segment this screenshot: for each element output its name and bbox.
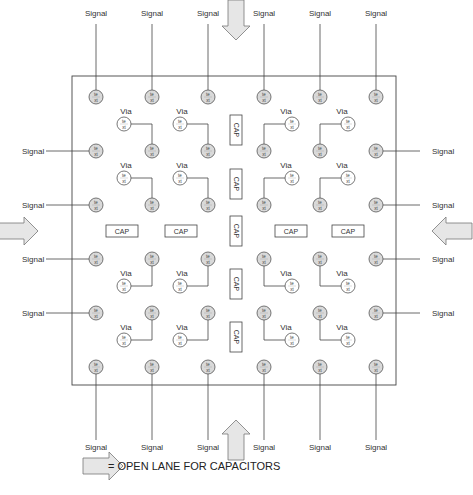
pin: text <box>145 252 159 266</box>
via-label: Via <box>176 269 188 278</box>
signal-label-left: Signal <box>22 147 44 156</box>
legend: = OPEN LANE FOR CAPACITORS <box>108 460 280 472</box>
pin: text <box>89 252 103 266</box>
svg-text:te: te <box>374 254 378 259</box>
svg-text:te: te <box>290 335 294 340</box>
pin: text <box>313 306 327 320</box>
signal-label-bottom: Signal <box>197 443 219 452</box>
svg-text:te: te <box>318 146 322 151</box>
svg-text:te: te <box>122 173 126 178</box>
svg-text:te: te <box>318 362 322 367</box>
signal-label-top: Signal <box>309 9 331 18</box>
signal-label-top: Signal <box>85 9 107 18</box>
svg-text:te: te <box>262 92 266 97</box>
via-pin: text <box>341 117 355 131</box>
svg-text:te: te <box>150 200 154 205</box>
svg-text:te: te <box>94 308 98 313</box>
svg-text:CAP: CAP <box>115 228 130 235</box>
svg-text:te: te <box>178 119 182 124</box>
pin: text <box>201 360 215 374</box>
capacitor-horizontal: CAP <box>106 225 138 237</box>
capacitor-vertical: CAP <box>230 169 242 199</box>
signal-label-right: Signal <box>432 309 454 318</box>
pin: text <box>89 306 103 320</box>
pin: text <box>201 198 215 212</box>
svg-text:te: te <box>94 92 98 97</box>
svg-text:CAP: CAP <box>174 228 189 235</box>
signal-label-left: Signal <box>22 201 44 210</box>
via-label: Via <box>176 107 188 116</box>
pin: text <box>145 90 159 104</box>
svg-text:te: te <box>94 254 98 259</box>
svg-text:te: te <box>318 254 322 259</box>
capacitor-horizontal: CAP <box>165 225 197 237</box>
capacitor-vertical: CAP <box>230 322 242 352</box>
via-pin: text <box>285 333 299 347</box>
pin: text <box>145 306 159 320</box>
svg-text:te: te <box>206 92 210 97</box>
signal-label-top: Signal <box>365 9 387 18</box>
via-label: Via <box>120 323 132 332</box>
pin: text <box>257 252 271 266</box>
svg-text:te: te <box>150 254 154 259</box>
svg-text:te: te <box>122 335 126 340</box>
via-label: Via <box>120 107 132 116</box>
open-lane-arrow-icon <box>432 217 472 245</box>
pin: text <box>369 252 383 266</box>
signal-label-right: Signal <box>432 201 454 210</box>
svg-text:te: te <box>318 200 322 205</box>
signal-label-bottom: Signal <box>365 443 387 452</box>
svg-text:CAP: CAP <box>233 177 240 192</box>
via-pin: text <box>341 279 355 293</box>
capacitor-lane-diagram: SignalSignalSignalSignalSignalSignalSign… <box>0 0 473 495</box>
via-pin: text <box>173 117 187 131</box>
svg-text:te: te <box>374 92 378 97</box>
pin: text <box>145 198 159 212</box>
svg-text:CAP: CAP <box>233 330 240 345</box>
svg-text:te: te <box>150 362 154 367</box>
svg-text:te: te <box>290 119 294 124</box>
open-lane-arrow-icon <box>222 0 250 40</box>
via-pin: text <box>117 171 131 185</box>
svg-text:te: te <box>262 362 266 367</box>
svg-text:CAP: CAP <box>284 228 299 235</box>
svg-text:te: te <box>206 146 210 151</box>
via-pin: text <box>173 333 187 347</box>
svg-text:te: te <box>206 362 210 367</box>
svg-text:te: te <box>346 281 350 286</box>
svg-text:te: te <box>346 119 350 124</box>
via-label: Via <box>336 269 348 278</box>
svg-text:te: te <box>262 308 266 313</box>
pin: text <box>369 306 383 320</box>
pin: text <box>313 252 327 266</box>
via-label: Via <box>280 269 292 278</box>
svg-text:te: te <box>374 362 378 367</box>
svg-text:te: te <box>122 119 126 124</box>
capacitor-vertical: CAP <box>230 115 242 145</box>
svg-text:te: te <box>206 254 210 259</box>
via-pin: text <box>285 279 299 293</box>
svg-text:te: te <box>150 308 154 313</box>
svg-text:te: te <box>346 335 350 340</box>
via-pin: text <box>173 279 187 293</box>
pin: text <box>313 360 327 374</box>
pin: text <box>257 360 271 374</box>
pin: text <box>89 144 103 158</box>
via-label: Via <box>336 161 348 170</box>
pin: text <box>257 306 271 320</box>
svg-text:te: te <box>262 254 266 259</box>
signal-label-left: Signal <box>22 309 44 318</box>
svg-text:te: te <box>94 362 98 367</box>
pin: text <box>89 198 103 212</box>
svg-text:te: te <box>94 200 98 205</box>
via-pin: text <box>341 171 355 185</box>
via-label: Via <box>336 323 348 332</box>
svg-text:CAP: CAP <box>341 228 356 235</box>
signal-label-bottom: Signal <box>141 443 163 452</box>
via-pin: text <box>173 171 187 185</box>
svg-text:te: te <box>346 173 350 178</box>
svg-text:te: te <box>150 92 154 97</box>
capacitor-horizontal: CAP <box>332 225 364 237</box>
via-label: Via <box>176 323 188 332</box>
signal-label-right: Signal <box>432 255 454 264</box>
